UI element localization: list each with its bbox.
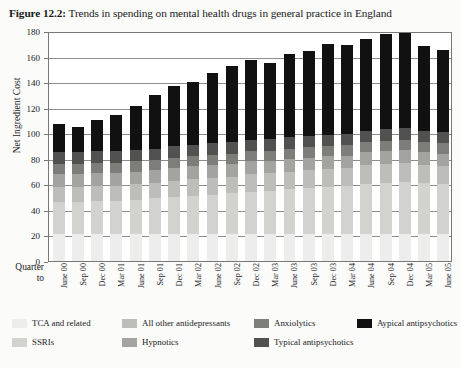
bar-segment [437, 132, 449, 144]
bar-segment [322, 146, 334, 156]
bar-segment [149, 160, 161, 170]
legend-item: TCA and related [12, 318, 91, 328]
bar-segment [284, 137, 296, 149]
bar-segment [168, 168, 180, 181]
x-axis-tick-label: Sep 01 [157, 263, 165, 286]
legend-swatch-icon [12, 338, 27, 347]
bar-segment [284, 189, 296, 234]
bar-segment [187, 234, 199, 261]
legend-label: Typical antipsychotics [274, 337, 353, 347]
x-axis-tick-label: Dec 03 [330, 263, 338, 286]
legend-swatch-icon [122, 338, 137, 347]
bar-segment [187, 156, 199, 166]
bar-segment [110, 201, 122, 234]
bar-segment [110, 173, 122, 186]
bar-sep-04 [380, 34, 392, 261]
bar-segment [53, 187, 65, 202]
bar-segment [264, 151, 276, 161]
bar-segment [245, 151, 257, 161]
bar-segment [110, 151, 122, 163]
bar-segment [399, 163, 411, 182]
bar-segment [149, 198, 161, 234]
bar-segment [303, 51, 315, 135]
bar-segment [226, 66, 238, 143]
legend-label: All other antidepressants [142, 318, 230, 328]
bar-segment [207, 73, 219, 143]
y-axis-tick-label: 60 [31, 181, 40, 190]
x-axis-tick-label: Mar 05 [426, 263, 434, 287]
x-axis-tick-label: Sep 04 [388, 263, 396, 286]
x-axis-tick-label: Mar 03 [272, 263, 280, 287]
bar-segment [168, 197, 180, 234]
bar-segment [226, 142, 238, 154]
bar-segment [437, 50, 449, 132]
bar-segment [418, 131, 430, 143]
bar-segment [360, 39, 372, 131]
bar-segment [245, 234, 257, 261]
x-axis-tick-label: Dec 00 [99, 263, 107, 286]
legend-label: Aypical antipsychotics [377, 318, 457, 328]
bar-segment [187, 179, 199, 196]
bar-segment [187, 145, 199, 157]
bar-segment [149, 149, 161, 161]
bar-segment [187, 196, 199, 234]
bar-segment [418, 165, 430, 183]
bar-segment [149, 170, 161, 183]
bar-segment [130, 106, 142, 149]
x-axis-tick-label: Sep 02 [234, 263, 242, 286]
bar-segment [110, 115, 122, 151]
bar-segment [226, 164, 238, 177]
plot-area [48, 32, 452, 262]
bar-mar-04 [341, 45, 353, 261]
y-axis-tick-label: 80 [31, 155, 40, 164]
bar-segment [72, 127, 84, 153]
bar-segment [399, 128, 411, 140]
bar-segment [341, 45, 353, 134]
bar-segment [437, 143, 449, 153]
bar-segment [380, 34, 392, 130]
bar-segment [53, 152, 65, 164]
bar-segment [72, 164, 84, 174]
bar-segment [284, 234, 296, 261]
legend-swatch-icon [12, 319, 27, 328]
bar-segment [264, 139, 276, 150]
bar-segment [341, 186, 353, 234]
bar-segment [91, 120, 103, 151]
bar-segment [110, 186, 122, 201]
bar-segment [399, 234, 411, 261]
x-axis-tick-label: June 02 [215, 263, 223, 288]
bar-segment [341, 168, 353, 186]
bar-segment [322, 234, 334, 261]
bar-segment [360, 131, 372, 143]
bar-segment [226, 193, 238, 234]
bar-segment [245, 140, 257, 152]
bar-segment [360, 234, 372, 261]
legend-label: Anxiolytics [274, 318, 315, 328]
x-axis-corner-label-line2: to [0, 273, 44, 284]
figure-root: Figure 12.2: Trends in spending on menta… [0, 0, 461, 368]
legend-item: Aypical antipsychotics [357, 318, 457, 328]
bar-dec-00 [91, 120, 103, 261]
bar-segment [437, 154, 449, 167]
bar-segment [303, 147, 315, 157]
bar-segment [91, 186, 103, 201]
bar-segment [360, 165, 372, 184]
chart-title: Figure 12.2: Trends in spending on menta… [9, 6, 455, 21]
x-axis-tick-label: Dec 04 [407, 263, 415, 286]
legend-label: SSRIs [32, 337, 54, 347]
bar-dec-01 [168, 86, 180, 261]
bar-segment [130, 184, 142, 199]
bar-segment [264, 63, 276, 139]
bar-segment [284, 172, 296, 190]
bar-segment [380, 141, 392, 151]
bar-segment [110, 163, 122, 173]
bar-segment [149, 183, 161, 198]
x-axis-tick-label: Sep 03 [311, 263, 319, 286]
bar-segment [72, 202, 84, 234]
legend-item: Anxiolytics [254, 318, 315, 328]
bar-segment [187, 82, 199, 145]
bar-segment [168, 234, 180, 261]
legend-item: Hypnotics [122, 337, 178, 347]
bar-segment [149, 95, 161, 149]
bar-segment [380, 234, 392, 261]
